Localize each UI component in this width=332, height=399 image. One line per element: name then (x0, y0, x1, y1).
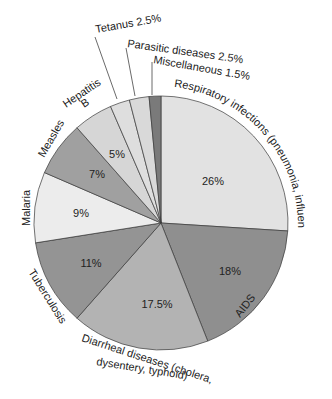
pie-chart: 26% 18% 17.5% 11% 9% 7% 5% Respiratory i… (0, 0, 332, 399)
slice-value-malaria: 9% (73, 207, 89, 219)
slice-value-aids: 18% (219, 265, 241, 277)
leader-line-parasitic (126, 48, 135, 96)
label-malaria: Malaria (20, 189, 32, 226)
label-tetanus: Tetanus 2.5% (94, 12, 162, 35)
pie-slices (34, 96, 288, 350)
pie-slice-respiratory (161, 96, 288, 231)
slice-value-measles: 7% (89, 168, 105, 180)
slice-value-diarrheal: 17.5% (141, 298, 172, 310)
label-hepatitis-line2: B (78, 96, 91, 110)
leader-line-tetanus (95, 37, 117, 99)
slice-value-tuberculosis: 11% (80, 257, 101, 269)
slice-value-respiratory: 26% (202, 175, 224, 187)
slice-value-hepatitis: 5% (109, 148, 125, 160)
